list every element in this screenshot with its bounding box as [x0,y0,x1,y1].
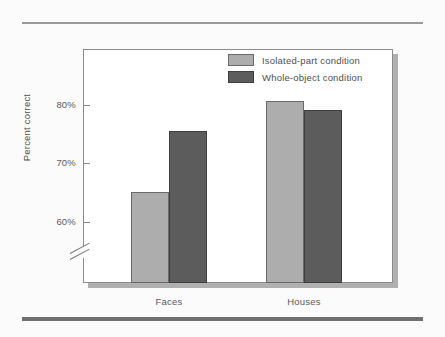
legend-label-isolated-part: Isolated-part condition [262,55,360,66]
legend-item-whole-object: Whole-object condition [228,71,363,83]
y-axis-title: Percent correct [21,68,32,188]
figure-container: Percent correct 80% 70% 60% Faces Houses… [0,0,445,337]
legend: Isolated-part condition Whole-object con… [228,54,363,83]
legend-swatch-isolated-part [228,54,254,66]
x-axis-label-faces: Faces [124,296,214,307]
x-axis-label-houses: Houses [259,296,349,307]
bar-houses-isolated-part [266,101,304,283]
y-tick-mark-80 [83,105,90,106]
legend-label-whole-object: Whole-object condition [262,72,363,83]
y-tick-mark-70 [83,163,90,164]
y-tick-label-80: 80% [44,99,76,110]
bar-houses-whole-object [304,110,342,283]
top-divider-rule [22,22,423,24]
legend-swatch-whole-object [228,71,254,83]
y-axis-break-icon [70,240,94,262]
bottom-divider-rule [22,317,423,321]
plot-area [83,49,393,283]
y-tick-mark-60 [83,222,90,223]
y-tick-label-70: 70% [44,157,76,168]
legend-item-isolated-part: Isolated-part condition [228,54,363,66]
y-tick-label-60: 60% [44,216,76,227]
bar-faces-isolated-part [131,192,169,283]
bar-faces-whole-object [169,131,207,283]
